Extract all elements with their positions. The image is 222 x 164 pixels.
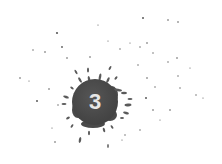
ink-blob: 3 <box>72 79 118 125</box>
ink-splatter-icon <box>0 0 222 164</box>
badge-number: 3 <box>89 91 101 113</box>
ink-splatter-badge: 3 <box>0 0 222 164</box>
